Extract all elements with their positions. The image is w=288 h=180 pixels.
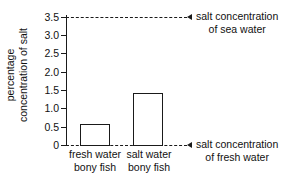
y-axis-tick-1.5 <box>61 90 66 91</box>
left-arrow-icon-fresh-water <box>187 142 192 148</box>
y-axis-tick-label-2.0: 2.0 <box>33 67 59 77</box>
y-axis-label: percentage concentration of salt <box>0 0 34 150</box>
y-axis-tick-2.5 <box>61 53 66 54</box>
y-axis-tick-2.0 <box>61 72 66 73</box>
y-axis-tick-label-0: 0 <box>33 140 59 150</box>
bar-chart: percentage concentration of salt 3.5 3.0… <box>0 0 288 180</box>
x-axis-category-label-salt-water: salt water bony fish <box>114 148 184 173</box>
left-arrow-icon-sea-water <box>187 14 192 20</box>
bar-fresh-water-bony-fish <box>80 124 110 146</box>
reference-line-sea-water <box>66 17 187 18</box>
annotation-sea-water: salt concentration of sea water <box>196 10 278 35</box>
category-salt-water-line2: bony fish <box>114 161 184 174</box>
category-salt-water-line1: salt water <box>114 148 184 161</box>
annotation-fresh-water-line1: salt concentration <box>196 138 278 151</box>
y-axis-tick-3.0 <box>61 35 66 36</box>
annotation-fresh-water-line2: of fresh water <box>196 151 278 164</box>
y-axis-tick-0.5 <box>61 127 66 128</box>
y-axis-tick-label-2.5: 2.5 <box>33 48 59 58</box>
bar-salt-water-bony-fish <box>133 93 163 146</box>
y-axis-tick-label-0.5: 0.5 <box>33 122 59 132</box>
annotation-fresh-water: salt concentration of fresh water <box>196 138 278 163</box>
y-axis-tick-label-3.0: 3.0 <box>33 30 59 40</box>
y-axis-tick-label-3.5: 3.5 <box>33 12 59 22</box>
y-axis-tick-label-1.0: 1.0 <box>33 103 59 113</box>
y-axis-line <box>66 15 67 146</box>
y-axis-tick-1.0 <box>61 108 66 109</box>
annotation-sea-water-line2: of sea water <box>196 23 278 36</box>
annotation-sea-water-line1: salt concentration <box>196 10 278 23</box>
y-axis-label-line2: concentration of salt <box>17 28 30 122</box>
y-axis-label-line1: percentage <box>4 49 17 102</box>
y-axis-tick-label-1.5: 1.5 <box>33 85 59 95</box>
